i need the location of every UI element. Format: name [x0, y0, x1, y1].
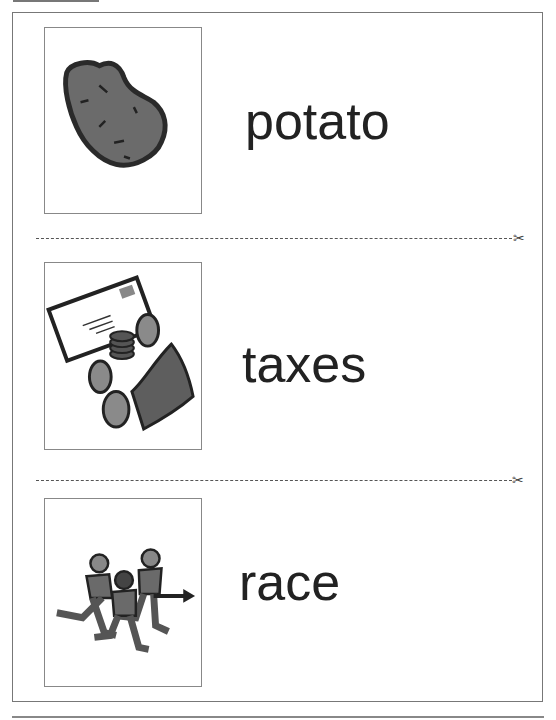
card-word: race	[239, 556, 340, 608]
cut-line	[36, 480, 512, 481]
card-picture-potato	[44, 27, 202, 214]
race-icon	[45, 499, 201, 686]
bottom-rule	[12, 716, 544, 718]
card-picture-taxes	[44, 262, 202, 450]
top-rule	[13, 0, 99, 2]
scissors-icon: ✂	[512, 473, 524, 487]
card-word: potato	[245, 95, 390, 147]
cut-line	[36, 238, 512, 239]
taxes-icon	[45, 263, 201, 449]
scissors-icon: ✂	[513, 231, 525, 245]
potato-icon	[45, 28, 201, 213]
card-word: taxes	[242, 338, 366, 390]
card-picture-race	[44, 498, 202, 687]
